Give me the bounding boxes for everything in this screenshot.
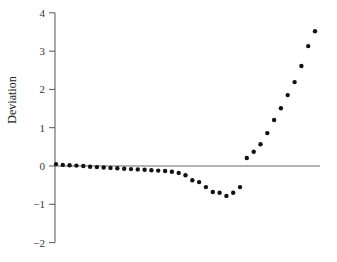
data-point — [231, 191, 235, 195]
data-point — [156, 168, 160, 172]
data-point — [74, 163, 78, 167]
data-points — [54, 29, 317, 198]
data-point — [129, 167, 133, 171]
deviation-chart: 43210−1−2 Deviation — [0, 0, 337, 262]
data-point — [136, 167, 140, 171]
data-point — [204, 185, 208, 189]
data-point — [258, 142, 262, 146]
data-point — [183, 173, 187, 177]
y-tick-label: 3 — [40, 45, 46, 57]
data-point — [313, 29, 317, 33]
y-axis-title: Deviation — [5, 76, 19, 123]
data-point — [272, 118, 276, 122]
data-point — [163, 169, 167, 173]
data-point — [149, 168, 153, 172]
data-point — [122, 167, 126, 171]
y-axis: 43210−1−2 — [33, 7, 55, 249]
data-point — [61, 163, 65, 167]
data-point — [108, 166, 112, 170]
data-point — [252, 150, 256, 154]
data-point — [67, 163, 71, 167]
y-tick-label: 2 — [40, 83, 46, 95]
data-point — [265, 131, 269, 135]
data-point — [292, 80, 296, 84]
data-point — [245, 156, 249, 160]
y-tick-label: 4 — [40, 7, 46, 19]
data-point — [286, 93, 290, 97]
data-point — [238, 185, 242, 189]
y-tick-label: 0 — [40, 160, 46, 172]
data-point — [81, 164, 85, 168]
data-point — [95, 165, 99, 169]
data-point — [102, 165, 106, 169]
data-point — [299, 64, 303, 68]
y-tick-label: −1 — [33, 198, 45, 210]
data-point — [306, 44, 310, 48]
data-point — [54, 162, 58, 166]
data-point — [115, 166, 119, 170]
data-point — [88, 165, 92, 169]
y-tick-label: 1 — [40, 122, 46, 134]
data-point — [279, 106, 283, 110]
data-point — [142, 168, 146, 172]
data-point — [217, 191, 221, 195]
data-point — [224, 194, 228, 198]
data-point — [197, 180, 201, 184]
data-point — [211, 190, 215, 194]
data-point — [190, 178, 194, 182]
data-point — [170, 170, 174, 174]
data-point — [177, 171, 181, 175]
y-tick-label: −2 — [33, 237, 45, 249]
